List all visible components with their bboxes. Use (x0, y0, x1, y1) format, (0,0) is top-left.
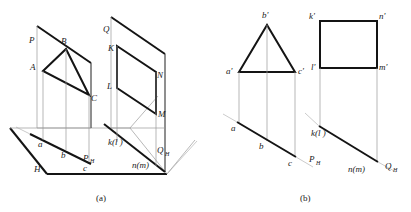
label-trace-qh: Q H (157, 145, 170, 157)
label-vertex-B: B (61, 36, 67, 46)
label-vertex-L: L (106, 81, 112, 91)
label-vertex-n-prime: n' (379, 11, 387, 21)
ground-plane-h (10, 96, 197, 174)
label-trace-ph-b: P H (308, 154, 321, 166)
label-proj-c-b: c (288, 158, 292, 168)
projection-lines-abc (43, 49, 89, 162)
label-trace-qh-subscript: H (164, 151, 170, 157)
label-trace-ph-letter-b: P (308, 154, 315, 164)
label-proj-b: b (61, 150, 66, 160)
label-trace-ph-letter: P (82, 153, 89, 163)
label-trace-ph-subscript-b: H (315, 160, 321, 166)
label-proj-kl-b: k(l ) (311, 128, 326, 138)
square-klmn-prime (320, 21, 377, 68)
panel-b: b' a' c' k' n' l' m' a b c P H k(l ) n(m… (223, 10, 398, 203)
label-proj-c: c (83, 163, 87, 173)
projectors-square (320, 68, 377, 162)
label-plane-h: H (33, 164, 41, 174)
label-vertex-k-prime: k' (309, 11, 316, 21)
label-proj-nm: n(m) (132, 160, 149, 170)
label-vertex-a-prime: a' (226, 66, 234, 76)
projectors-triangle (239, 25, 295, 157)
label-trace-ph-subscript: H (89, 158, 95, 164)
label-proj-a-b: a (231, 123, 236, 133)
label-proj-b-b: b (259, 141, 264, 151)
label-vertex-A: A (29, 62, 36, 72)
trace-ph-line-b (223, 114, 313, 167)
label-trace-qh-letter: Q (157, 145, 164, 155)
label-proj-a: a (38, 139, 43, 149)
caption-panel-b: (b) (300, 193, 311, 203)
label-vertex-K: K (107, 43, 115, 53)
parallelogram-klmn (117, 46, 156, 114)
label-vertex-N: N (156, 70, 164, 80)
technical-drawing-figure: P Q H A B C K L M N a b c P H k(l ) n(m)… (0, 0, 411, 212)
label-plane-q: Q (103, 24, 110, 34)
panel-a: P Q H A B C K L M N a b c P H k(l ) n(m)… (10, 17, 197, 203)
label-trace-qh-b: Q H (385, 161, 398, 173)
caption-panel-a: (a) (96, 193, 106, 203)
label-proj-kl: k(l ) (108, 137, 123, 147)
projection-lines-klmn (117, 46, 156, 166)
label-vertex-l-prime: l' (311, 62, 317, 72)
label-plane-p: P (28, 35, 35, 45)
label-trace-qh-letter-b: Q (385, 161, 392, 171)
label-vertex-C: C (91, 93, 98, 103)
label-proj-nm-b: n(m) (348, 164, 365, 174)
label-vertex-m-prime: m' (379, 62, 388, 72)
label-trace-qh-subscript-b: H (392, 167, 398, 173)
label-vertex-M: M (157, 109, 166, 119)
label-vertex-b-prime: b' (262, 10, 270, 20)
label-vertex-c-prime: c' (298, 66, 305, 76)
